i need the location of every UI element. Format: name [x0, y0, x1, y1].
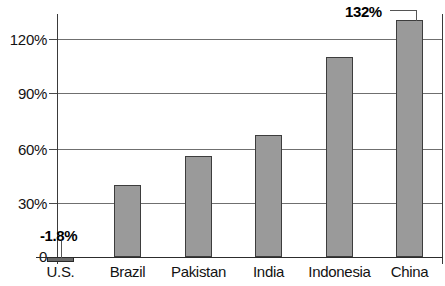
bar-indonesia: [326, 57, 353, 257]
y-tick-label-120: 120%: [10, 32, 47, 47]
x-axis-baseline: [36, 257, 443, 258]
x-label-us: U.S.: [28, 264, 93, 279]
annotation-china-leader-vertical: [416, 10, 417, 21]
annotation-china-leader-horizontal: [390, 10, 417, 11]
plot-right-border: [442, 14, 443, 264]
gridline-120: [57, 39, 443, 40]
bar-pakistan: [185, 156, 212, 257]
gridline-90: [57, 93, 443, 94]
bar-chart: 120% 90% 60% 30% 0 U.S. Brazil Pakistan …: [0, 0, 445, 286]
x-label-indonesia: Indonesia: [299, 264, 380, 279]
bar-brazil: [114, 185, 141, 257]
x-label-pakistan: Pakistan: [160, 264, 237, 279]
y-tick-label-60: 60%: [18, 142, 47, 157]
x-label-india: India: [236, 264, 301, 279]
bar-china: [396, 20, 423, 257]
gridline-60: [57, 149, 443, 150]
bar-india: [255, 135, 282, 257]
y-tick-label-90: 90%: [18, 86, 47, 101]
annotation-china-value: 132%: [345, 4, 382, 19]
annotation-us-leader-line: [61, 241, 62, 258]
annotation-us-value: -1.8%: [40, 228, 77, 243]
x-label-brazil: Brazil: [95, 264, 160, 279]
x-label-china: China: [377, 264, 442, 279]
y-tick-label-30: 30%: [18, 196, 47, 211]
